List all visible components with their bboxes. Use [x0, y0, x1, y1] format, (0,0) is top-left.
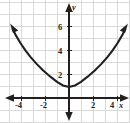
- x-tick-label-minus-4: -4: [15, 101, 22, 110]
- graph-figure: -4 -2 2 4 2 4 6 x y: [0, 0, 130, 123]
- y-tick-label-6: 6: [58, 23, 62, 32]
- y-tick-label-2: 2: [58, 71, 62, 80]
- x-tick-label-minus-2: -2: [40, 101, 47, 110]
- x-tick-label-2: 2: [91, 101, 95, 110]
- x-tick-label-4: 4: [110, 101, 114, 110]
- y-tick-label-4: 4: [58, 47, 62, 56]
- y-axis-name: y: [72, 3, 76, 12]
- x-axis-name: x: [119, 101, 123, 110]
